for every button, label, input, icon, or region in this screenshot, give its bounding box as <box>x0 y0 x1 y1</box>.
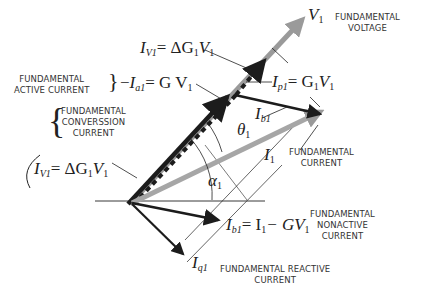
ip1-equation: Ip1= G1V1 <box>272 73 334 96</box>
voltage-label: V1 <box>308 6 323 29</box>
ib1-upper-label: Ib1 <box>255 105 271 128</box>
leader-ia1 <box>196 84 223 100</box>
phasor-diagram: V1 FUNDAMENTALVOLTAGE IV1= ΔG1V1 } −Ia1=… <box>0 0 423 300</box>
iv1-upper-dashed <box>236 61 264 95</box>
ib1-lower-equation: Ib1= I1− GV1 <box>226 216 310 239</box>
leader-ip1b <box>272 48 288 63</box>
theta-label: θ1 <box>237 121 250 144</box>
i1-label: I1 <box>264 146 275 169</box>
leader-iv1-bottom <box>112 163 137 178</box>
reactive-current-caption: FUNDAMENTAL REACTIVECURRENT <box>220 264 330 286</box>
current-caption: FUNDAMENTALCURRENT <box>289 147 354 169</box>
active-current-brace: } <box>108 70 119 92</box>
conversion-current-caption: FUNDAMENTALCONVERSSIONCURRENT <box>61 106 126 139</box>
active-current-caption: FUNDAMENTALACTIVE CURRENT <box>14 74 89 96</box>
voltage-caption: FUNDAMENTALVOLTAGE <box>335 12 400 34</box>
iq1-label: Iq1 <box>192 254 208 277</box>
guide-line-lower <box>187 165 282 262</box>
ia1-equation: −Ia1= G V1 <box>120 74 193 97</box>
iv1-top-equation: IV1= ΔG1V1 <box>140 39 214 62</box>
leader-current-top <box>310 97 320 107</box>
alpha-label: α1 <box>208 172 222 195</box>
nonactive-current-caption: FUNDAMENTALNONACTIVECURRENT <box>310 209 375 242</box>
iv1-bottom-equation: IV1= ΔG1V1 <box>34 160 108 183</box>
